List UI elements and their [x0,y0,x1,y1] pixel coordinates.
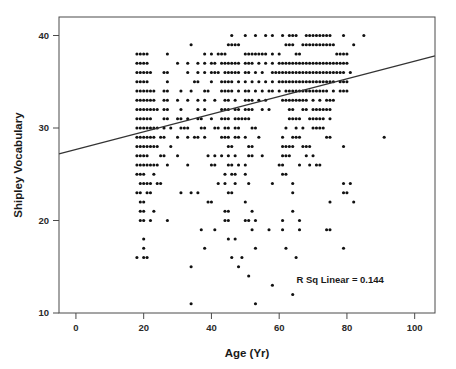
regression-line-layer [59,56,435,154]
data-point [271,34,274,37]
data-point [291,136,294,139]
data-point [328,200,331,203]
data-point [315,62,318,65]
data-point [308,34,311,37]
data-point [142,71,145,74]
data-point [227,154,230,157]
data-point [315,34,318,37]
data-point [227,80,230,83]
data-point [146,163,149,166]
data-point [176,117,179,120]
data-point [237,71,240,74]
data-point [298,228,301,231]
data-point [288,62,291,65]
data-point [220,80,223,83]
data-point [267,89,270,92]
data-point [244,62,247,65]
data-point [146,80,149,83]
data-point [298,62,301,65]
data-point [298,52,301,55]
regression-fit-line [59,56,435,154]
data-point [288,89,291,92]
data-point [135,117,138,120]
data-point [146,126,149,129]
data-point [244,89,247,92]
data-point [342,71,345,74]
data-point [298,99,301,102]
data-point [318,71,321,74]
x-axis-title: Age (Yr) [225,347,270,359]
data-point [169,145,172,148]
data-point [251,99,254,102]
data-point [237,136,240,139]
data-point [149,71,152,74]
data-point [176,62,179,65]
data-point [149,99,152,102]
data-point [342,89,345,92]
data-point [278,71,281,74]
data-point [318,62,321,65]
data-point [251,62,254,65]
data-point [142,210,145,213]
data-point [247,108,250,111]
data-point [217,182,220,185]
data-point [264,52,267,55]
data-point [328,34,331,37]
data-point [332,89,335,92]
data-point [322,43,325,46]
data-point [284,99,287,102]
data-point [325,99,328,102]
data-point [139,52,142,55]
data-point [261,71,264,74]
data-point [213,154,216,157]
data-point [196,136,199,139]
data-point [261,52,264,55]
data-point [149,182,152,185]
data-point [162,136,165,139]
data-point [362,34,365,37]
data-point [295,117,298,120]
data-point [227,117,230,120]
data-point [196,62,199,65]
data-point [244,136,247,139]
data-point [237,108,240,111]
data-point [295,256,298,259]
data-point [227,99,230,102]
data-point [301,108,304,111]
data-point [312,108,315,111]
data-point [135,99,138,102]
data-point [234,117,237,120]
data-point [345,62,348,65]
data-point [149,136,152,139]
data-point [186,99,189,102]
data-point [291,182,294,185]
data-point [308,145,311,148]
data-point [152,163,155,166]
data-point [308,163,311,166]
data-point [152,210,155,213]
data-point [190,191,193,194]
data-point [203,71,206,74]
data-point [312,117,315,120]
data-point [308,71,311,74]
data-point [142,136,145,139]
data-point [135,154,138,157]
data-point [288,117,291,120]
data-point [291,210,294,213]
data-point [254,89,257,92]
data-point [244,71,247,74]
data-point [332,71,335,74]
data-point [146,99,149,102]
data-point [325,89,328,92]
data-point [237,62,240,65]
data-point [190,43,193,46]
data-point [345,80,348,83]
data-point [146,182,149,185]
data-point [139,136,142,139]
data-point [305,154,308,157]
data-point [203,108,206,111]
data-point [186,163,189,166]
data-point [156,163,159,166]
data-point [281,154,284,157]
data-point [230,145,233,148]
